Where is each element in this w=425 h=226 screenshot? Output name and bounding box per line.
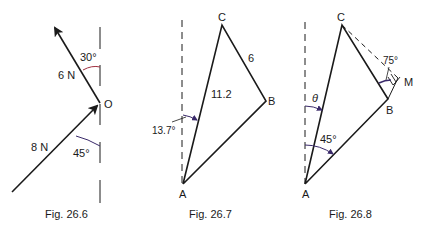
vertex-label-m: M [404,76,413,88]
triangle-abc [183,25,266,184]
vertex-label-a: A [179,188,187,200]
force-arrow-6n [55,28,100,103]
figure-26-6: 30° 6 N O 8 N 45° Fig. 26.6 [12,27,113,220]
triangle-abc [305,25,388,184]
angle-label-75: 75° [383,55,398,66]
angle-label-13-7: 13.7° [152,125,175,136]
side-label-ac: 11.2 [211,88,232,100]
vertex-label-c: C [337,11,345,23]
diagram-canvas: 30° 6 N O 8 N 45° Fig. 26.6 C 6 11.2 B 1… [0,0,425,226]
angle-leader-line [172,117,186,122]
vertex-label-a: A [302,188,310,200]
force-label-6n: 6 N [58,69,75,81]
angle-label-theta: θ [312,92,318,104]
angle-arc-75 [379,80,391,83]
angle-arc-theta [305,106,322,110]
angle-arc-45 [305,145,333,154]
vertex-label-c: C [218,11,226,23]
figure-26-8: C 75° M B θ 45° A Fig. 26.8 [302,11,413,220]
angle-label-45: 45° [320,133,337,145]
angle-arc-45 [76,136,100,146]
caption-fig-26-7: Fig. 26.7 [189,208,232,220]
vertex-label-b: B [386,104,393,116]
figure-26-7: C 6 11.2 B 13.7° A Fig. 26.7 [152,11,275,220]
side-label-bc: 6 [248,52,254,64]
caption-fig-26-8: Fig. 26.8 [329,208,372,220]
vertex-label-b: B [268,95,275,107]
angle-label-30: 30° [80,51,97,63]
angle-arc-30 [83,66,100,70]
force-label-8n: 8 N [31,141,48,153]
point-label-o: O [104,98,113,110]
caption-fig-26-6: Fig. 26.6 [45,208,88,220]
angle-label-45: 45° [73,147,90,159]
